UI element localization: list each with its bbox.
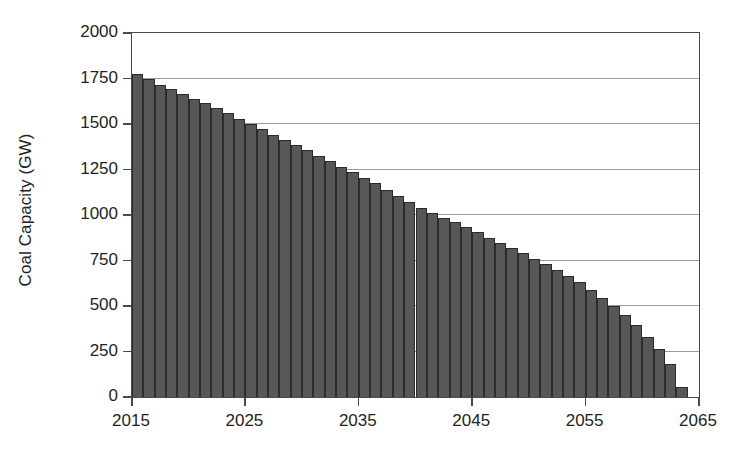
bar	[189, 99, 200, 397]
y-tick-mark	[123, 305, 131, 307]
bar	[200, 103, 211, 397]
bar	[325, 161, 336, 397]
bar	[642, 337, 653, 397]
bar	[450, 222, 461, 397]
bar	[381, 190, 392, 397]
bar	[484, 238, 495, 397]
bar	[461, 227, 472, 397]
x-tick-mark	[244, 397, 246, 406]
bar	[438, 218, 449, 397]
bar	[620, 315, 631, 397]
bar	[427, 213, 438, 397]
y-tick-mark	[123, 123, 131, 125]
y-tick-mark	[123, 351, 131, 353]
bar	[574, 282, 585, 397]
bar	[347, 172, 358, 397]
bar	[223, 113, 234, 397]
y-tick-mark	[123, 396, 131, 398]
y-tick-label: 1000	[48, 204, 118, 224]
bar	[177, 94, 188, 397]
bar	[336, 167, 347, 397]
bar	[359, 178, 370, 397]
y-tick-mark	[123, 214, 131, 216]
bar	[506, 248, 517, 397]
y-tick-mark	[123, 260, 131, 262]
y-tick-label: 500	[48, 295, 118, 315]
x-tick-label: 2055	[566, 411, 604, 431]
bar	[132, 74, 143, 397]
bar	[495, 243, 506, 397]
bar	[416, 208, 427, 397]
bar	[268, 135, 279, 397]
y-tick-mark	[123, 78, 131, 80]
bar	[302, 150, 313, 397]
bar	[313, 156, 324, 397]
bar	[291, 145, 302, 397]
bar	[676, 387, 687, 397]
bar	[631, 325, 642, 397]
bar	[563, 276, 574, 397]
x-tick-label: 2065	[679, 411, 717, 431]
bar	[234, 119, 245, 397]
y-tick-label: 1250	[48, 159, 118, 179]
plot-area	[131, 32, 700, 398]
bar	[404, 202, 415, 397]
bar	[245, 124, 256, 397]
bar	[586, 290, 597, 397]
x-tick-mark	[131, 397, 133, 406]
bar	[143, 79, 154, 397]
y-tick-label: 0	[48, 386, 118, 406]
y-tick-label: 1500	[48, 113, 118, 133]
bar	[540, 264, 551, 397]
x-tick-label: 2025	[225, 411, 263, 431]
y-tick-mark	[123, 169, 131, 171]
x-tick-mark	[358, 397, 360, 406]
y-tick-label: 2000	[48, 22, 118, 42]
bar	[597, 298, 608, 397]
x-tick-label: 2015	[112, 411, 150, 431]
chart-figure: Coal Capacity (GW) 025050075010001250150…	[0, 0, 756, 459]
x-tick-mark	[471, 397, 473, 406]
x-tick-mark	[585, 397, 587, 406]
bar	[654, 349, 665, 397]
bar	[166, 89, 177, 397]
bar	[529, 259, 540, 397]
y-axis-title-text: Coal Capacity (GW)	[16, 134, 36, 287]
bar	[211, 108, 222, 397]
y-tick-mark	[123, 32, 131, 34]
bar	[665, 364, 676, 397]
bar	[370, 183, 381, 397]
y-tick-label: 750	[48, 250, 118, 270]
bar-series	[132, 33, 699, 397]
bar	[608, 306, 619, 397]
bar	[472, 232, 483, 397]
bar	[279, 140, 290, 397]
bar	[552, 270, 563, 397]
x-tick-mark	[698, 397, 700, 406]
x-tick-label: 2045	[452, 411, 490, 431]
bar	[155, 85, 166, 397]
y-tick-label: 250	[48, 341, 118, 361]
bar	[518, 253, 529, 397]
bar	[257, 129, 268, 397]
x-tick-label: 2035	[339, 411, 377, 431]
y-tick-label: 1750	[48, 68, 118, 88]
bar	[393, 196, 404, 397]
y-axis-title: Coal Capacity (GW)	[6, 0, 46, 420]
